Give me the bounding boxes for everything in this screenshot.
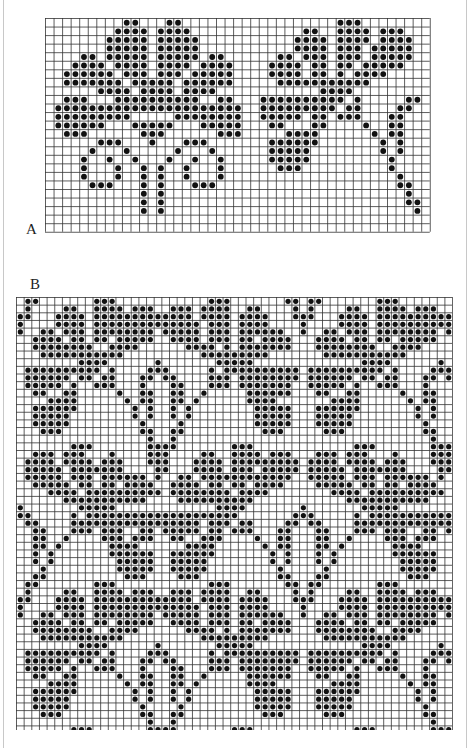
chart-a-stitch-dot xyxy=(175,54,181,60)
chart-b-stitch-dot xyxy=(209,352,214,357)
chart-b-stitch-dot xyxy=(347,413,352,418)
chart-b-stitch-dot xyxy=(385,360,390,365)
chart-b-stitch-dot xyxy=(240,666,245,671)
chart-a-stitch-dot xyxy=(184,54,190,60)
chart-b-stitch-dot xyxy=(278,482,283,487)
chart-b-stitch-dot xyxy=(71,391,76,396)
chart-b-stitch-dot xyxy=(71,329,76,334)
chart-b-stitch-dot xyxy=(393,605,398,610)
chart-b-stitch-dot xyxy=(431,375,436,380)
chart-b-stitch-dot xyxy=(132,628,137,633)
chart-b-stitch-dot xyxy=(148,651,153,656)
chart-a-stitch-dot xyxy=(380,37,386,43)
chart-b-stitch-dot xyxy=(278,459,283,464)
chart-a-stitch-dot xyxy=(397,114,403,120)
chart-b-stitch-dot xyxy=(431,314,436,319)
chart-a-stitch-dot xyxy=(107,182,113,188)
chart-b-stitch-dot xyxy=(270,620,275,625)
chart-b-stitch-dot xyxy=(408,566,413,571)
chart-b-stitch-dot xyxy=(194,482,199,487)
chart-a-stitch-dot xyxy=(295,46,301,52)
chart-b-stitch-dot xyxy=(64,628,69,633)
chart-a-stitch-dot xyxy=(218,71,224,77)
chart-a-stitch-dot xyxy=(98,80,104,86)
chart-b-stitch-dot xyxy=(270,413,275,418)
chart-b-stitch-dot xyxy=(224,605,229,610)
chart-b-stitch-dot xyxy=(110,345,115,350)
chart-b-stitch-dot xyxy=(102,383,107,388)
chart-b-stitch-dot xyxy=(178,674,183,679)
chart-b-stitch-dot xyxy=(41,666,46,671)
chart-b-stitch-dot xyxy=(247,597,252,602)
chart-b-stitch-dot xyxy=(117,628,122,633)
chart-b-stitch-dot xyxy=(71,597,76,602)
chart-a-stitch-dot xyxy=(295,37,301,43)
chart-b-stitch-dot xyxy=(41,329,46,334)
chart-a-stitch-dot xyxy=(226,105,232,111)
chart-b-stitch-dot xyxy=(110,467,115,472)
chart-b-stitch-dot xyxy=(431,719,436,724)
chart-a-stitch-dot xyxy=(269,148,275,154)
chart-b-stitch-dot xyxy=(408,490,413,495)
chart-b-stitch-dot xyxy=(324,383,329,388)
chart-b-stitch-dot xyxy=(110,528,115,533)
chart-b-stitch-dot xyxy=(339,429,344,434)
chart-b-stitch-dot xyxy=(48,475,53,480)
chart-b-stitch-dot xyxy=(224,375,229,380)
chart-a-stitch-dot xyxy=(73,122,79,128)
chart-a-stitch-dot xyxy=(55,122,61,128)
chart-b-stitch-dot xyxy=(354,329,359,334)
chart-b-stitch-dot xyxy=(25,467,30,472)
chart-b-stitch-dot xyxy=(347,628,352,633)
chart-b-stitch-dot xyxy=(393,551,398,556)
chart-b-stitch-dot xyxy=(400,551,405,556)
chart-a-stitch-dot xyxy=(286,114,292,120)
chart-b-stitch-dot xyxy=(209,628,214,633)
chart-a-stitch-dot xyxy=(192,54,198,60)
chart-b-stitch-dot xyxy=(25,475,30,480)
chart-b-stitch-dot xyxy=(224,337,229,342)
chart-b-stitch-dot xyxy=(263,490,268,495)
chart-b-stitch-dot xyxy=(178,681,183,686)
chart-b-stitch-dot xyxy=(263,628,268,633)
chart-a-stitch-dot xyxy=(98,114,104,120)
chart-b-stitch-dot xyxy=(178,322,183,327)
chart-b-stitch-dot xyxy=(194,490,199,495)
chart-b-stitch-dot xyxy=(64,536,69,541)
chart-b-stitch-dot xyxy=(209,368,214,373)
chart-b-stitch-dot xyxy=(140,597,145,602)
chart-a-stitch-dot xyxy=(406,54,412,60)
chart-b-stitch-dot xyxy=(270,559,275,564)
chart-b-stitch-dot xyxy=(362,444,367,449)
chart-b-stitch-dot xyxy=(194,498,199,503)
chart-a-stitch-dot xyxy=(389,28,395,34)
chart-a-stitch-dot xyxy=(98,71,104,77)
chart-b-stitch-dot xyxy=(431,444,436,449)
chart-b-stitch-dot xyxy=(438,314,443,319)
chart-b-stitch-dot xyxy=(110,475,115,480)
chart-a-stitch-dot xyxy=(158,80,164,86)
chart-b-stitch-dot xyxy=(263,368,268,373)
chart-b-stitch-dot xyxy=(94,352,99,357)
chart-b-stitch-dot xyxy=(446,521,451,526)
chart-a-stitch-dot xyxy=(278,80,284,86)
chart-b-stitch-dot xyxy=(438,643,443,648)
chart-b-stitch-dot xyxy=(132,306,137,311)
chart-b-stitch-dot xyxy=(370,513,375,518)
chart-a-stitch-dot xyxy=(295,114,301,120)
chart-b-stitch-dot xyxy=(324,697,329,702)
chart-a-stitch-dot xyxy=(295,157,301,163)
chart-a-stitch-dot xyxy=(218,122,224,128)
chart-b-stitch-dot xyxy=(209,612,214,617)
chart-b-stitch-dot xyxy=(423,674,428,679)
chart-a-stitch-dot xyxy=(303,131,309,137)
chart-a-stitch-dot xyxy=(158,28,164,34)
chart-b-stitch-dot xyxy=(285,368,290,373)
chart-b-stitch-dot xyxy=(423,475,428,480)
chart-a-stitch-dot xyxy=(389,37,395,43)
chart-b-stitch-dot xyxy=(140,314,145,319)
chart-b-stitch-dot xyxy=(178,566,183,571)
chart-b-stitch-dot xyxy=(201,306,206,311)
chart-b-stitch-dot xyxy=(270,421,275,426)
chart-a-stitch-dot xyxy=(269,105,275,111)
